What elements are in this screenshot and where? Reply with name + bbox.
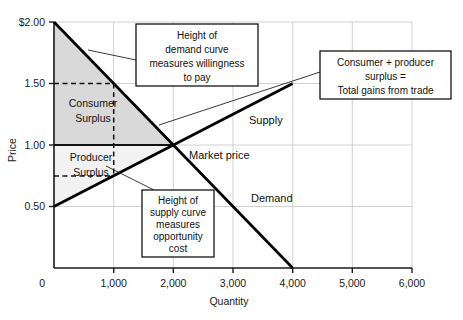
xtick-label-3000: 3,000 (220, 277, 246, 289)
chart-canvas: $2.00 1.50 1.00 0.50 0 1,000 2,000 3,000… (0, 0, 463, 320)
xtick-label-6000: 6,000 (399, 277, 425, 289)
x-axis-title: Quantity (209, 295, 249, 307)
callout-supply-line1: Height of (158, 195, 198, 206)
callout-supply-line5: cost (169, 243, 188, 254)
xtick-label-5000: 5,000 (339, 277, 365, 289)
y-axis-title: Price (6, 138, 18, 162)
callout-demand-line1: Height of (177, 30, 217, 41)
consumer-surplus-label-line2: Surplus (75, 112, 111, 124)
ytick-label-050: 0.50 (25, 200, 46, 212)
callout-height-of-demand-curve[interactable]: Height of demand curve measures willingn… (136, 24, 258, 86)
callout-supply-line3: measures (156, 219, 200, 230)
producer-surplus-label-line2: Surplus (73, 166, 109, 178)
ytick-label-200: $2.00 (19, 16, 45, 28)
callout-demand-line3: measures willingness (149, 58, 244, 69)
producer-surplus-label-line1: Producer (70, 151, 113, 163)
supply-curve-label: Supply (249, 114, 283, 126)
market-price-label: Market price (189, 149, 250, 161)
x-tick-labels: 1,000 2,000 3,000 4,000 5,000 6,000 (101, 277, 426, 289)
callout-supply-line4: opportunity (153, 231, 202, 242)
ytick-label-150: 1.50 (25, 77, 46, 89)
consumer-surplus-label-line1: Consumer (69, 97, 118, 109)
supply-demand-chart: $2.00 1.50 1.00 0.50 0 1,000 2,000 3,000… (0, 0, 463, 320)
callout-surplus-line3: Total gains from trade (337, 85, 434, 96)
leader-demand-height (88, 50, 136, 60)
y-tick-labels: $2.00 1.50 1.00 0.50 0 (19, 16, 45, 290)
xtick-label-2000: 2,000 (160, 277, 186, 289)
callout-surplus-line2: surplus = (365, 71, 406, 82)
callout-surplus-line1: Consumer + producer (337, 57, 435, 68)
xtick-label-4000: 4,000 (280, 277, 306, 289)
xtick-label-1000: 1,000 (101, 277, 127, 289)
callout-demand-line4: to pay (183, 72, 210, 83)
demand-curve-label: Demand (251, 192, 293, 204)
callout-supply-line2: supply curve (150, 207, 207, 218)
ytick-label-100: 1.00 (25, 139, 46, 151)
callout-height-of-supply-curve[interactable]: Height of supply curve measures opportun… (142, 190, 214, 257)
ytick-label-000: 0 (39, 277, 45, 289)
leader-supply-height (106, 166, 154, 190)
callout-demand-line2: demand curve (165, 44, 229, 55)
callout-total-gains-from-trade[interactable]: Consumer + producer surplus = Total gain… (320, 51, 451, 99)
